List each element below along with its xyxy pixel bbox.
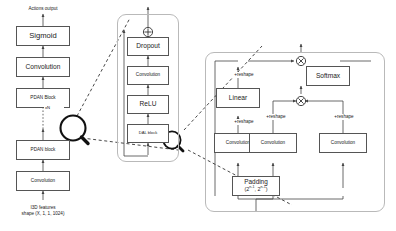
- node-convolution-top[interactable]: Convolution: [16, 57, 70, 77]
- reshape-label-linear-in: +reshape: [226, 119, 262, 125]
- node-convolution-bottom[interactable]: Convolution: [16, 171, 70, 191]
- node-convolution-mid[interactable]: Convolution: [249, 133, 297, 153]
- reshape-label-conv-right: +reshape: [326, 114, 362, 120]
- node-padding[interactable]: Padding (2n-1, 2n-1): [232, 176, 280, 196]
- reshape-label-linear-out: +reshape: [226, 72, 262, 78]
- padding-size-label: (2n-1, 2n-1): [245, 186, 268, 192]
- node-sigmoid[interactable]: Sigmoid: [16, 26, 70, 46]
- i3d-features-label-line1: I3D features: [8, 205, 78, 211]
- node-dal-block[interactable]: DAL block: [127, 124, 169, 143]
- reshape-label-conv-mid: +reshape: [258, 114, 294, 120]
- repeat-count-label: xN: [44, 105, 64, 110]
- node-softmax[interactable]: Softmax: [306, 66, 350, 86]
- node-convolution-right[interactable]: Convolution: [319, 133, 367, 153]
- node-dropout[interactable]: Dropout: [127, 37, 169, 56]
- node-relu[interactable]: ReLU: [127, 95, 169, 114]
- actions-output-label: Actions output: [13, 6, 73, 12]
- node-linear[interactable]: Linear: [216, 88, 260, 108]
- node-pdan-block-lower[interactable]: PDAN block: [16, 140, 70, 160]
- architecture-diagram: Actions output Sigmoid Convolution PDAN …: [0, 0, 396, 231]
- node-convolution-middle[interactable]: Convolution: [127, 66, 169, 85]
- i3d-features-shape-label: shape (X, 1, 1, 1024): [8, 211, 78, 217]
